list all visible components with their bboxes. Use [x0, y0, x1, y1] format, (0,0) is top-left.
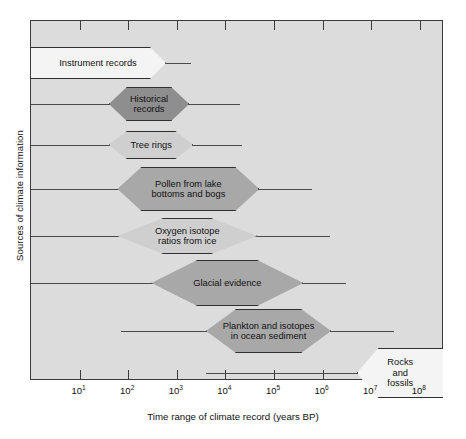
source-tag-label: Plankton and isotopes in ocean sediment — [223, 321, 315, 342]
range-line-7 — [206, 373, 357, 374]
x-tick-label-10e8: 108 — [412, 384, 426, 396]
x-tick-top-1 — [80, 21, 81, 30]
source-tag-label: Historical records — [130, 94, 168, 115]
x-tick-top-3 — [177, 21, 178, 30]
climate-record-chart: Sources of climate information Instrumen… — [0, 0, 466, 439]
source-tag-tree-rings[interactable]: Tree rings — [109, 131, 194, 159]
x-tick-bottom-1 — [80, 370, 81, 379]
source-tag-glacial-evidence[interactable]: Glacial evidence — [151, 260, 303, 306]
x-axis-title: Time range of climate record (years BP) — [0, 411, 466, 422]
x-tick-label-10e2: 102 — [120, 384, 134, 396]
source-tag-historical-records[interactable]: Historical records — [109, 87, 189, 121]
plot-inner: Instrument recordsHistorical recordsTree… — [31, 21, 442, 379]
x-tick-label-10e6: 106 — [314, 384, 328, 396]
source-tag-pollen-from-lake-bottoms-and-bogs[interactable]: Pollen from lake bottoms and bogs — [117, 167, 259, 211]
x-tick-bottom-3 — [177, 370, 178, 379]
source-tag-oxygen-isotope-ratios-from-ice[interactable]: Oxygen isotope ratios from ice — [117, 218, 257, 254]
source-tag-label: Tree rings — [130, 140, 172, 150]
x-tick-label-10e3: 103 — [169, 384, 183, 396]
x-tick-top-8 — [420, 21, 421, 30]
x-tick-label-10e7: 107 — [363, 384, 377, 396]
x-tick-top-7 — [371, 21, 372, 30]
source-tag-label: Pollen from lake bottoms and bogs — [151, 179, 225, 200]
source-tag-label: Rocks and fossils — [387, 357, 413, 388]
x-tick-top-5 — [274, 21, 275, 30]
source-tag-instrument-records[interactable]: Instrument records — [31, 47, 166, 79]
x-tick-top-4 — [225, 21, 226, 30]
x-tick-label-10e5: 105 — [266, 384, 280, 396]
x-tick-label-10e1: 101 — [71, 384, 85, 396]
x-tick-bottom-5 — [274, 370, 275, 379]
plot-area: Instrument recordsHistorical recordsTree… — [30, 20, 443, 380]
source-tag-plankton-and-isotopes-in-ocean-sediment[interactable]: Plankton and isotopes in ocean sediment — [206, 309, 331, 353]
x-tick-top-2 — [128, 21, 129, 30]
x-tick-bottom-6 — [323, 370, 324, 379]
x-tick-bottom-2 — [128, 370, 129, 379]
x-tick-label-10e4: 104 — [217, 384, 231, 396]
y-axis-title: Sources of climate information — [14, 91, 25, 301]
x-tick-bottom-4 — [225, 370, 226, 379]
source-tag-label: Instrument records — [59, 58, 137, 68]
x-tick-top-6 — [323, 21, 324, 30]
source-tag-label: Oxygen isotope ratios from ice — [155, 226, 220, 247]
source-tag-label: Glacial evidence — [193, 278, 261, 288]
